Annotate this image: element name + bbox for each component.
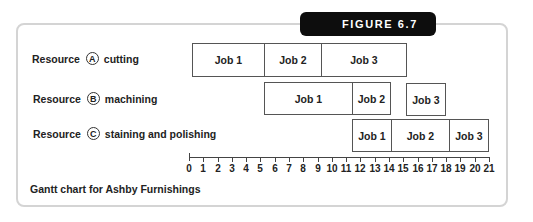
gantt-bar: Job 1: [352, 119, 392, 152]
resource-label-a: Resource A cutting: [32, 52, 139, 65]
resource-letter-circle: B: [87, 92, 100, 105]
axis-tick: [218, 157, 219, 162]
figure-badge: FIGURE 6.7: [300, 12, 436, 36]
time-axis: [189, 157, 489, 158]
gantt-bar: Job 3: [406, 83, 446, 116]
axis-tick: [303, 157, 304, 162]
gantt-bar: Job 1: [264, 82, 353, 115]
axis-tick: [346, 157, 347, 162]
resource-word: Resource: [32, 53, 80, 65]
gantt-bar: Job 2: [264, 43, 322, 77]
axis-tick: [489, 157, 490, 162]
axis-tick: [318, 157, 319, 162]
axis-tick: [203, 157, 204, 162]
resource-letter-circle: A: [86, 52, 99, 65]
axis-tick: [275, 157, 276, 162]
axis-tick: [246, 157, 247, 162]
axis-tick: [460, 157, 461, 162]
resource-label-b: Resource B machining: [33, 92, 157, 105]
resource-word: Resource: [33, 93, 81, 105]
axis-tick: [360, 157, 361, 162]
axis-tick: [389, 157, 390, 162]
axis-tick: [232, 157, 233, 162]
resource-label-c: Resource C staining and polishing: [33, 127, 216, 140]
resource-word: Resource: [33, 128, 81, 140]
axis-tick: [446, 157, 447, 162]
chart-caption: Gantt chart for Ashby Furnishings: [30, 183, 201, 195]
gantt-bar: Job 1: [192, 43, 265, 77]
axis-tick: [475, 157, 476, 162]
axis-tick: [418, 157, 419, 162]
axis-tick: [375, 157, 376, 162]
gantt-bar: Job 3: [321, 43, 407, 77]
resource-name: cutting: [104, 53, 139, 65]
axis-tick: [189, 153, 190, 161]
resource-letter-circle: C: [87, 127, 100, 140]
axis-tick-label: 21: [479, 163, 499, 174]
resource-name: machining: [105, 93, 158, 105]
axis-tick: [403, 157, 404, 162]
axis-tick: [332, 157, 333, 162]
resource-name: staining and polishing: [105, 128, 216, 140]
axis-tick: [289, 157, 290, 162]
gantt-bar: Job 2: [391, 119, 450, 152]
gantt-bar: Job 3: [449, 119, 489, 152]
axis-tick: [432, 157, 433, 162]
axis-tick: [260, 157, 261, 162]
gantt-bar: Job 2: [352, 82, 391, 115]
